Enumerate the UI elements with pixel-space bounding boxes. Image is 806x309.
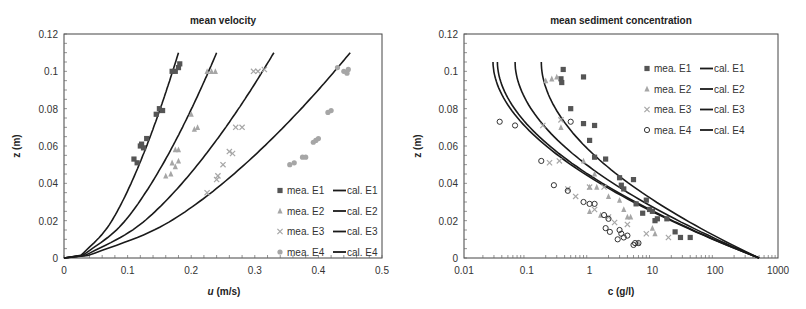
legend-entry: mea. E3cal. E3 bbox=[277, 226, 378, 237]
square-marker bbox=[631, 177, 636, 182]
y-tick-label: 0.1 bbox=[44, 66, 58, 77]
triangle-marker bbox=[606, 193, 611, 199]
legend-measured-label: mea. E4 bbox=[287, 247, 325, 258]
legend-calculated-label: cal. E1 bbox=[347, 185, 378, 196]
series-mea-e2 bbox=[163, 68, 218, 178]
triangle-marker bbox=[549, 76, 554, 82]
y-tick-label: 0.06 bbox=[439, 141, 459, 152]
calculated-curve bbox=[64, 53, 217, 258]
x-tick-label: 0 bbox=[61, 265, 67, 276]
circle-marker bbox=[346, 67, 351, 72]
x-marker bbox=[644, 231, 649, 236]
square-marker bbox=[650, 209, 655, 214]
square-marker bbox=[592, 123, 597, 128]
y-tick-label: 0.12 bbox=[439, 29, 459, 40]
open-circle-marker bbox=[512, 123, 517, 128]
legend-calculated-label: cal. E1 bbox=[714, 63, 745, 74]
x-marker bbox=[239, 125, 244, 130]
concentration-chart: mean sediment concentration 00.020.040.0… bbox=[412, 15, 790, 297]
y-tick-label: 0.06 bbox=[39, 141, 59, 152]
triangle-marker bbox=[170, 160, 175, 166]
velocity-chart: mean velocity 00.020.040.060.080.10.12 0… bbox=[11, 15, 389, 297]
y-tick-label: 0.08 bbox=[439, 104, 459, 115]
x-marker bbox=[625, 222, 630, 227]
velocity-x-label-unit: (m/s) bbox=[214, 286, 241, 297]
legend-measured-label: mea. E1 bbox=[654, 63, 692, 74]
square-marker bbox=[141, 145, 146, 150]
triangle-marker bbox=[652, 231, 657, 237]
x-marker bbox=[592, 207, 597, 212]
triangle-marker bbox=[195, 124, 200, 130]
x-tick-label: 0.5 bbox=[375, 265, 389, 276]
square-marker bbox=[561, 67, 566, 72]
open-circle-marker bbox=[644, 127, 649, 132]
x-marker bbox=[557, 158, 562, 163]
legend-calculated-label: cal. E2 bbox=[714, 84, 745, 95]
legend-calculated-label: cal. E3 bbox=[347, 226, 378, 237]
velocity-x-label: u (m/s) bbox=[208, 286, 241, 297]
triangle-marker bbox=[628, 214, 633, 220]
x-tick-label: 100 bbox=[707, 265, 724, 276]
y-tick-label: 0.02 bbox=[39, 216, 59, 227]
concentration-x-label: c (g/l) bbox=[608, 286, 635, 297]
open-circle-marker bbox=[539, 158, 544, 163]
x-tick-label: 10 bbox=[647, 265, 659, 276]
circle-marker bbox=[277, 249, 282, 254]
square-marker bbox=[678, 235, 683, 240]
square-marker bbox=[603, 156, 608, 161]
square-marker bbox=[160, 108, 165, 113]
x-marker bbox=[205, 190, 210, 195]
triangle-marker bbox=[277, 208, 282, 214]
triangle-marker bbox=[558, 124, 563, 130]
square-marker bbox=[277, 188, 282, 193]
y-tick-label: 0.02 bbox=[439, 216, 459, 227]
velocity-plot-area bbox=[64, 34, 382, 258]
legend-entry: mea. E4cal. E4 bbox=[644, 125, 745, 136]
square-marker bbox=[144, 136, 149, 141]
y-tick-label: 0 bbox=[452, 253, 458, 264]
x-marker bbox=[277, 229, 282, 234]
y-tick-label: 0.04 bbox=[439, 178, 459, 189]
triangle-marker bbox=[644, 86, 649, 92]
legend-measured-label: mea. E2 bbox=[287, 206, 325, 217]
triangle-marker bbox=[650, 225, 655, 231]
circle-marker bbox=[287, 162, 292, 167]
square-marker bbox=[655, 216, 660, 221]
figure: mean velocity 00.020.040.060.080.10.12 0… bbox=[0, 0, 806, 309]
open-circle-marker bbox=[581, 199, 586, 204]
circle-marker bbox=[335, 65, 340, 70]
square-marker bbox=[644, 198, 649, 203]
triangle-marker bbox=[163, 173, 168, 179]
x-tick-label: 0.2 bbox=[184, 265, 198, 276]
x-marker bbox=[573, 194, 578, 199]
legend-entry: mea. E1cal. E1 bbox=[277, 185, 378, 196]
legend-entry: mea. E3cal. E3 bbox=[644, 104, 745, 115]
legend-measured-label: mea. E4 bbox=[654, 125, 692, 136]
legend-calculated-label: cal. E2 bbox=[347, 206, 378, 217]
x-tick-label: 0.1 bbox=[520, 265, 534, 276]
x-marker bbox=[547, 160, 552, 165]
y-tick-label: 0.12 bbox=[39, 29, 59, 40]
velocity-chart-title: mean velocity bbox=[190, 15, 257, 26]
x-marker bbox=[666, 235, 671, 240]
concentration-legend: mea. E1cal. E1mea. E2cal. E2mea. E3cal. … bbox=[644, 63, 745, 136]
square-marker bbox=[688, 235, 693, 240]
triangle-marker bbox=[587, 208, 592, 214]
legend-measured-label: mea. E2 bbox=[654, 84, 692, 95]
triangle-marker bbox=[617, 197, 622, 203]
square-marker bbox=[621, 186, 626, 191]
square-marker bbox=[581, 74, 586, 79]
legend-measured-label: mea. E1 bbox=[287, 185, 325, 196]
square-marker bbox=[154, 112, 159, 117]
concentration-y-axis: 00.020.040.060.080.10.12 bbox=[439, 29, 467, 264]
square-marker bbox=[581, 121, 586, 126]
legend-entry: mea. E2cal. E2 bbox=[644, 84, 745, 95]
square-marker bbox=[587, 138, 592, 143]
series-mea-e4 bbox=[287, 65, 351, 167]
legend-calculated-label: cal. E4 bbox=[714, 125, 745, 136]
legend-measured-label: mea. E3 bbox=[654, 104, 692, 115]
square-marker bbox=[673, 229, 678, 234]
y-tick-label: 0 bbox=[52, 253, 58, 264]
square-marker bbox=[640, 211, 645, 216]
circle-marker bbox=[316, 136, 321, 141]
